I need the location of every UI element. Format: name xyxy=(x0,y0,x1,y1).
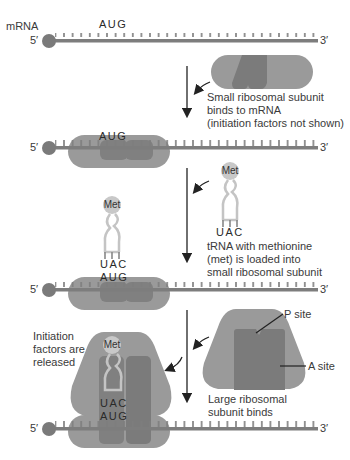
step2-caption-line3: small ribosomal subunit xyxy=(207,266,322,279)
curved-arrow-4 xyxy=(169,357,182,369)
step3-caption-line1: Large ribosomal xyxy=(208,393,287,406)
met-label-free: Met xyxy=(218,165,242,176)
met-label-bound: Met xyxy=(100,199,124,210)
step1-caption-line3: (initiation factors not shown) xyxy=(207,117,344,130)
three-prime-label-3: 3′ xyxy=(320,283,328,296)
aug-codon-4: AUG xyxy=(100,410,128,422)
five-prime-label-4: 5′ xyxy=(30,422,38,435)
curved-arrow-3 xyxy=(196,337,209,346)
mrna-label: mRNA xyxy=(6,20,38,33)
step1-caption-line1: Small ribosomal subunit xyxy=(207,91,324,104)
aug-codon-2: AUG xyxy=(99,130,127,142)
uac-anticodon-free: UAC xyxy=(216,226,244,238)
step2-caption-line1: tRNA with methionine xyxy=(207,240,312,253)
step4-caption-line3: released xyxy=(33,356,75,369)
step4-caption-line2: factors are xyxy=(33,343,85,356)
diagram-canvas xyxy=(0,0,350,460)
met-label-ribosome: Met xyxy=(100,339,124,350)
uac-anticodon-bound: UAC xyxy=(100,258,128,270)
five-prime-label-2: 5′ xyxy=(30,141,38,154)
aug-codon-3: AUG xyxy=(100,271,128,283)
small-subunit-free xyxy=(211,55,313,89)
step1-caption-line2: binds to mRNA xyxy=(207,104,281,117)
aug-codon-1: AUG xyxy=(99,18,127,30)
step3-caption-line2: subunit binds xyxy=(208,406,273,419)
three-prime-label-4: 3′ xyxy=(320,422,328,435)
uac-anticodon-ribosome: UAC xyxy=(100,397,128,409)
mrna-strand-1 xyxy=(42,33,318,48)
a-site-label: A site xyxy=(308,360,335,373)
five-prime-label-3: 5′ xyxy=(30,283,38,296)
step2-caption-line2: (met) is loaded into xyxy=(207,253,301,266)
large-subunit-free xyxy=(203,309,306,390)
five-prime-label-1: 5′ xyxy=(30,34,38,47)
p-site-label: P site xyxy=(284,308,311,321)
three-prime-label-1: 3′ xyxy=(320,34,328,47)
curved-arrow-1 xyxy=(197,82,210,91)
curved-arrow-2 xyxy=(196,181,209,190)
step4-caption-line1: Initiation xyxy=(33,330,74,343)
three-prime-label-2: 3′ xyxy=(320,141,328,154)
